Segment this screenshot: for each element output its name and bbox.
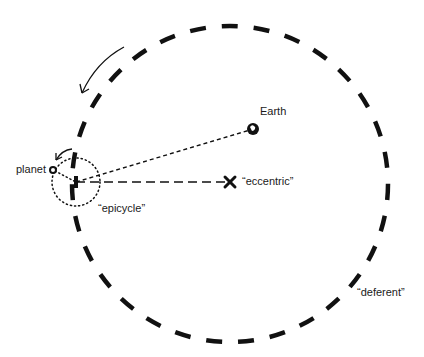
planet-radius-line [55,171,74,181]
earth-label: Earth [260,105,286,117]
planet-label: planet [16,163,46,175]
epicycle-label: “epicycle” [98,202,145,214]
planet-point [50,167,56,173]
eccentric-label: “eccentric” [242,175,293,187]
eccentric-x-icon [225,177,235,187]
ptolemaic-diagram [0,0,424,357]
earth-to-epicycle-line [76,130,250,182]
deferent-label: “deferent” [357,286,405,298]
